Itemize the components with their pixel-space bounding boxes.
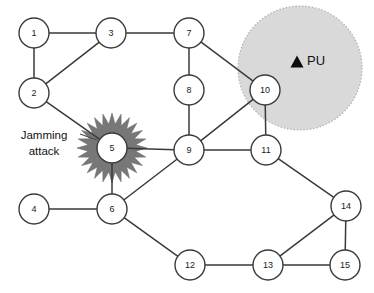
edge-13-14 (279, 214, 335, 256)
node-7[interactable]: 7 (174, 18, 204, 48)
edge-14-15 (345, 220, 346, 251)
node-11[interactable]: 11 (251, 135, 281, 165)
edge-9-10 (200, 99, 254, 142)
node-14[interactable]: 14 (331, 191, 361, 221)
node-label-6: 6 (109, 204, 114, 214)
node-4[interactable]: 4 (19, 194, 49, 224)
node-12[interactable]: 12 (175, 250, 205, 280)
edge-2-3 (45, 42, 100, 85)
node-3[interactable]: 3 (96, 18, 126, 48)
node-label-11: 11 (261, 145, 270, 155)
pu-label: PU (307, 53, 325, 68)
edge-11-14 (277, 158, 334, 198)
node-label-4: 4 (31, 204, 36, 214)
node-label-2: 2 (31, 88, 36, 98)
node-label-8: 8 (186, 85, 191, 95)
node-label-12: 12 (185, 260, 195, 270)
node-1[interactable]: 1 (19, 18, 49, 48)
node-2[interactable]: 2 (19, 78, 49, 108)
node-9[interactable]: 9 (174, 135, 204, 165)
network-diagram-canvas: 123456789101112131415 PUJammingattack (0, 0, 374, 293)
pu-coverage-region (238, 6, 362, 130)
node-label-13: 13 (263, 260, 273, 270)
node-15[interactable]: 15 (330, 250, 360, 280)
node-10[interactable]: 10 (250, 75, 280, 105)
node-label-7: 7 (186, 28, 191, 38)
node-label-1: 1 (31, 28, 36, 38)
edge-6-12 (123, 217, 178, 257)
node-label-9: 9 (186, 145, 191, 155)
edge-10-11 (265, 104, 266, 136)
node-6[interactable]: 6 (97, 194, 127, 224)
node-5[interactable]: 5 (97, 133, 127, 163)
node-label-3: 3 (108, 28, 113, 38)
network-diagram-svg: 123456789101112131415 PUJammingattack (0, 0, 374, 293)
pu-coverage-circle (238, 6, 362, 130)
node-label-15: 15 (340, 260, 350, 270)
node-label-5: 5 (109, 143, 114, 153)
jamming-label-line2: attack (29, 145, 60, 157)
node-label-10: 10 (260, 85, 270, 95)
node-13[interactable]: 13 (253, 250, 283, 280)
jamming-label-line1: Jamming (21, 129, 68, 141)
node-8[interactable]: 8 (174, 75, 204, 105)
node-label-14: 14 (341, 201, 351, 211)
